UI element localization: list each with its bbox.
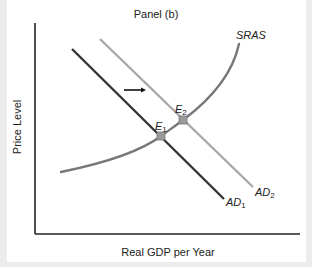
shift-arrow-icon bbox=[124, 88, 146, 93]
ad1-label-main: AD bbox=[225, 196, 241, 208]
chart-title: Panel (b) bbox=[134, 8, 179, 20]
y-axis-label: Price Level bbox=[11, 100, 23, 154]
e2-point bbox=[179, 116, 187, 124]
x-axis-label: Real GDP per Year bbox=[121, 246, 215, 258]
e1-label: E1 bbox=[155, 120, 167, 134]
ad2-label-sub: 2 bbox=[270, 191, 275, 200]
ad1-label-sub: 1 bbox=[241, 201, 246, 210]
sras-label: SRAS bbox=[236, 29, 267, 41]
ad1-line bbox=[72, 49, 224, 199]
ad2-label: AD2 bbox=[254, 186, 275, 200]
chart-svg: Panel (b) Price Level Real GDP per Year … bbox=[0, 0, 312, 267]
ad2-label-main: AD bbox=[254, 186, 270, 198]
e2-label-sub: 2 bbox=[182, 108, 187, 117]
ad1-label: AD1 bbox=[225, 196, 246, 210]
e1-label-sub: 1 bbox=[162, 125, 167, 134]
e2-label: E2 bbox=[175, 103, 187, 117]
